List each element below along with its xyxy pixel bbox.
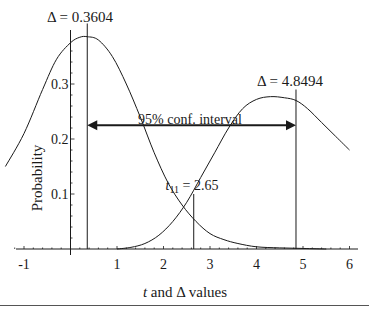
delta-right-label: Δ = 4.8494 [257, 73, 324, 89]
probability-chart: -11234560.10.20.3 Δ = 0.3604 Δ = 4.8494 … [0, 0, 369, 319]
y-axis-label: Probability [29, 144, 45, 211]
x-tick-label: 3 [207, 257, 214, 272]
t-stat-value: = 2.65 [179, 178, 218, 193]
vertical-reference-lines [87, 24, 296, 250]
t-stat-label: t11 = 2.65 [166, 178, 219, 195]
axes: -11234560.10.20.3 [15, 30, 358, 272]
arrow-head-left-icon [87, 120, 97, 130]
y-tick-label: 0.2 [51, 132, 69, 147]
x-tick-label: 1 [114, 257, 121, 272]
x-axis-label: t and Δ values [143, 284, 227, 300]
y-tick-label: 0.3 [51, 77, 69, 92]
x-tick-label: 4 [253, 257, 260, 272]
t-stat-subscript: 11 [169, 184, 179, 195]
bottom-rule [0, 305, 369, 306]
x-tick-label: 6 [346, 257, 353, 272]
x-tick-label: 5 [300, 257, 307, 272]
x-axis-label-rest: and Δ values [147, 284, 227, 300]
interval-label: 95% conf. interval [138, 112, 242, 127]
y-tick-label: 0.1 [51, 187, 69, 202]
x-tick-label: -1 [18, 257, 30, 272]
delta-left-label: Δ = 0.3604 [47, 9, 114, 25]
arrow-head-right-icon [286, 120, 296, 130]
x-tick-label: 2 [160, 257, 167, 272]
